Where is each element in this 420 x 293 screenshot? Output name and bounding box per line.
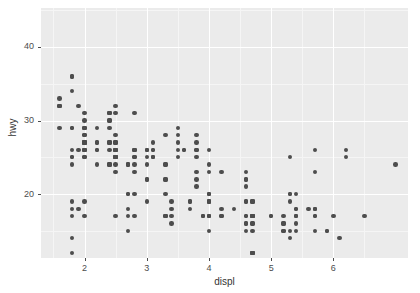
gridline-major-horizontal bbox=[41, 194, 408, 195]
data-point bbox=[250, 199, 254, 203]
data-point bbox=[145, 199, 149, 203]
data-point bbox=[269, 214, 273, 218]
data-point bbox=[313, 170, 317, 174]
data-point bbox=[169, 207, 173, 211]
data-point bbox=[294, 207, 298, 211]
data-point bbox=[107, 126, 111, 130]
data-point bbox=[107, 162, 111, 166]
gridline-minor-vertical bbox=[302, 8, 303, 258]
data-point bbox=[207, 170, 211, 174]
data-point bbox=[70, 126, 74, 130]
data-point bbox=[362, 214, 366, 218]
data-point bbox=[126, 229, 130, 233]
x-tick-label: 2 bbox=[70, 263, 100, 274]
data-point bbox=[163, 162, 167, 166]
data-point bbox=[188, 199, 192, 203]
data-point bbox=[132, 162, 136, 166]
data-point bbox=[132, 155, 136, 159]
x-tick-label: 6 bbox=[318, 263, 348, 274]
x-tick-mark bbox=[147, 258, 148, 261]
data-point bbox=[70, 207, 74, 211]
data-point bbox=[250, 251, 254, 255]
data-point bbox=[126, 162, 130, 166]
data-point bbox=[113, 104, 117, 108]
gridline-major-vertical bbox=[271, 8, 272, 258]
data-point bbox=[207, 192, 211, 196]
data-point bbox=[288, 199, 292, 203]
x-tick-mark bbox=[333, 258, 334, 261]
data-point bbox=[113, 133, 117, 137]
data-point bbox=[169, 221, 173, 225]
data-point bbox=[82, 126, 86, 130]
data-point bbox=[163, 214, 167, 218]
data-point bbox=[194, 155, 198, 159]
gridline-major-vertical bbox=[209, 8, 210, 258]
data-point bbox=[82, 118, 86, 122]
data-point bbox=[70, 251, 74, 255]
data-point bbox=[95, 126, 99, 130]
data-point bbox=[76, 148, 80, 152]
data-point bbox=[126, 192, 130, 196]
data-point bbox=[294, 192, 298, 196]
data-point bbox=[82, 133, 86, 137]
data-point bbox=[107, 148, 111, 152]
data-point bbox=[188, 207, 192, 211]
data-point bbox=[207, 229, 211, 233]
data-point bbox=[132, 192, 136, 196]
gridline-major-horizontal bbox=[41, 47, 408, 48]
data-point bbox=[176, 155, 180, 159]
data-point bbox=[82, 214, 86, 218]
data-point bbox=[70, 89, 74, 93]
data-point bbox=[244, 177, 248, 181]
data-point bbox=[313, 214, 317, 218]
data-point bbox=[244, 199, 248, 203]
data-point bbox=[107, 118, 111, 122]
data-point bbox=[281, 221, 285, 225]
data-point bbox=[113, 162, 117, 166]
gridline-minor-horizontal bbox=[41, 231, 408, 232]
data-point bbox=[57, 126, 61, 130]
data-point bbox=[244, 184, 248, 188]
data-point bbox=[313, 229, 317, 233]
data-point bbox=[201, 214, 205, 218]
data-point bbox=[82, 199, 86, 203]
y-tick-mark bbox=[38, 121, 41, 122]
data-point bbox=[82, 148, 86, 152]
data-point bbox=[325, 229, 329, 233]
scatter-plot-figure: 23456 203040 displ hwy bbox=[0, 0, 420, 293]
gridline-minor-vertical bbox=[53, 8, 54, 258]
data-point bbox=[176, 126, 180, 130]
data-point bbox=[176, 148, 180, 152]
data-point bbox=[288, 155, 292, 159]
data-point bbox=[244, 229, 248, 233]
plot-panel bbox=[41, 8, 408, 258]
data-point bbox=[194, 133, 198, 137]
data-point bbox=[182, 148, 186, 152]
data-point bbox=[126, 214, 130, 218]
data-point bbox=[70, 214, 74, 218]
data-point bbox=[288, 192, 292, 196]
data-point bbox=[194, 140, 198, 144]
data-point bbox=[250, 221, 254, 225]
data-point bbox=[344, 148, 348, 152]
data-point bbox=[244, 214, 248, 218]
data-point bbox=[145, 177, 149, 181]
y-tick-label: 20 bbox=[8, 189, 34, 200]
gridline-minor-horizontal bbox=[41, 84, 408, 85]
data-point bbox=[132, 111, 136, 115]
data-point bbox=[151, 155, 155, 159]
x-tick-label: 5 bbox=[256, 263, 286, 274]
y-tick-label: 40 bbox=[8, 41, 34, 52]
data-point bbox=[281, 229, 285, 233]
data-point bbox=[113, 111, 117, 115]
data-point bbox=[194, 148, 198, 152]
data-point bbox=[76, 104, 80, 108]
gridline-major-vertical bbox=[333, 8, 334, 258]
gridline-minor-horizontal bbox=[41, 157, 408, 158]
data-point bbox=[132, 170, 136, 174]
data-point bbox=[132, 214, 136, 218]
data-point bbox=[294, 214, 298, 218]
data-point bbox=[207, 148, 211, 152]
data-point bbox=[132, 148, 136, 152]
data-point bbox=[82, 155, 86, 159]
